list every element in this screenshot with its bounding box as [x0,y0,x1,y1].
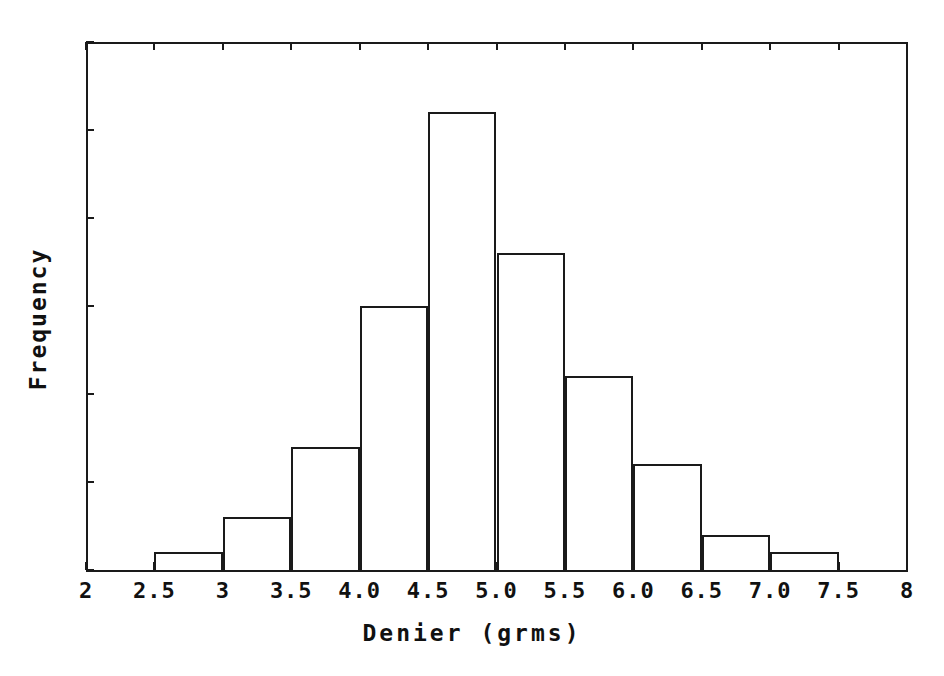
x-axis-tick-label: 5.5 [544,578,587,603]
y-axis-tick [86,217,94,219]
histogram-bar [291,447,359,570]
x-axis-tick-label: 2.5 [133,578,176,603]
x-axis-tick-label: 5.0 [475,578,518,603]
x-axis-tick-label: 7.0 [749,578,792,603]
right-spine-line [906,42,908,572]
x-axis-tick-top [359,42,361,50]
x-axis-tick-top [838,42,840,50]
x-axis-tick-top [632,42,634,50]
x-axis-tick-label: 2 [79,578,93,603]
histogram-chart: 22.533.54.04.55.05.56.06.57.07.580510152… [0,0,944,676]
x-axis-tick-top [222,42,224,50]
histogram-bar [497,253,565,570]
y-axis-tick [86,41,94,43]
x-axis-title: Denier (grms) [0,620,944,646]
x-axis-tick-label: 6.5 [680,578,723,603]
histogram-bar [223,517,291,570]
x-axis-tick-top [290,42,292,50]
x-axis-tick-top [85,42,87,50]
y-axis-line [86,42,88,572]
y-axis-tick [86,129,94,131]
x-axis-tick-top [769,42,771,50]
x-axis-tick-top [564,42,566,50]
x-axis-tick-top [906,42,908,50]
x-axis-tick-label: 4.0 [338,578,381,603]
x-axis-tick-label: 7.5 [817,578,860,603]
x-axis-tick-top [427,42,429,50]
x-axis-tick-label: 3 [216,578,230,603]
x-axis-tick-label: 4.5 [407,578,450,603]
histogram-bar [633,464,701,570]
histogram-bar [360,306,428,570]
x-axis-tick-label: 8 [900,578,914,603]
y-axis-tick [86,481,94,483]
histogram-bar [565,376,633,570]
y-axis-tick [86,569,94,571]
histogram-bar [770,552,838,570]
histogram-bar [428,112,496,570]
x-axis-tick-label: 3.5 [270,578,313,603]
x-axis-tick [906,562,908,570]
histogram-bar [702,535,770,570]
y-axis-title: Frequency [25,189,51,449]
y-axis-tick [86,305,94,307]
x-axis-tick-top [153,42,155,50]
x-axis-tick-top [496,42,498,50]
y-axis-tick [86,393,94,395]
histogram-bar [154,552,222,570]
x-axis-tick-label: 6.0 [612,578,655,603]
x-axis-tick-top [701,42,703,50]
x-axis-line [86,570,908,572]
